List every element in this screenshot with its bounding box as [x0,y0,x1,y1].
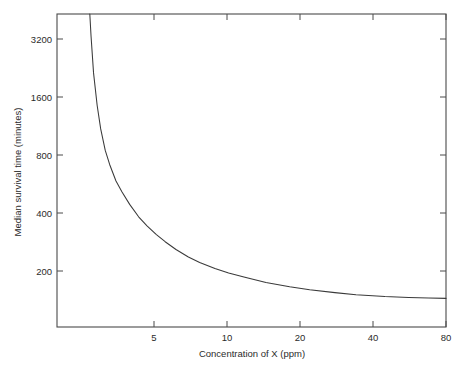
x-tick-label-20: 20 [295,332,306,343]
x-tick-label-80: 80 [441,332,452,343]
y-axis-ticks-right [440,39,446,271]
x-tick-label-40: 40 [368,332,379,343]
x-tick-label-10: 10 [222,332,233,343]
y-axis-title: Median survival time (minutes) [12,108,23,237]
x-axis-tick-labels: 5 10 20 40 80 [151,332,451,343]
survival-time-curve [90,14,446,298]
plot-frame [57,14,446,327]
figure-canvas: 5 10 20 40 80 3200 1600 800 400 200 Conc… [0,0,475,371]
y-tick-label-1600: 1600 [31,92,52,103]
chart-plot: 5 10 20 40 80 3200 1600 800 400 200 Conc… [0,0,475,371]
x-axis-title: Concentration of X (ppm) [199,348,305,359]
y-tick-label-200: 200 [36,266,52,277]
y-axis-tick-labels: 3200 1600 800 400 200 [31,34,52,277]
y-tick-label-400: 400 [36,208,52,219]
x-tick-label-5: 5 [151,332,156,343]
x-axis-ticks-bottom [154,321,446,327]
x-axis-ticks-top [154,14,446,20]
y-tick-label-800: 800 [36,150,52,161]
y-axis-ticks-left [57,39,63,271]
y-tick-label-3200: 3200 [31,34,52,45]
